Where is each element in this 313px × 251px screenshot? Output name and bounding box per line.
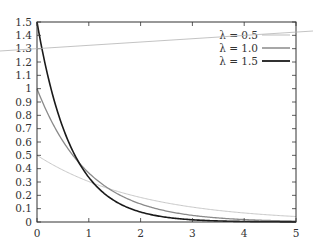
y-tick-label: 1.3 (15, 42, 32, 54)
y-tick-label: 0.3 (15, 176, 32, 188)
y-tick-label: 1.1 (15, 69, 32, 81)
legend-label: λ = 1.0 (219, 42, 258, 54)
y-tick-label: 0.1 (15, 202, 32, 214)
curve-lambda-1 (37, 89, 296, 221)
y-tick-label: 0.2 (15, 189, 32, 201)
y-tick-label: 0.6 (15, 136, 32, 148)
x-axis: 012345 (34, 22, 300, 239)
x-tick-label: 0 (34, 227, 41, 239)
legend: λ = 0.5λ = 1.0λ = 1.5 (219, 29, 290, 67)
y-tick-label: 0.7 (15, 122, 32, 134)
legend-label: λ = 1.5 (219, 55, 258, 67)
y-tick-label: 0.4 (15, 162, 32, 174)
y-tick-label: 0.9 (15, 96, 32, 108)
x-tick-label: 4 (241, 227, 248, 239)
x-tick-label: 5 (293, 227, 300, 239)
y-tick-label: 1.4 (15, 29, 32, 41)
y-tick-label: 0.8 (15, 109, 32, 121)
x-tick-label: 1 (85, 227, 92, 239)
x-tick-label: 2 (137, 227, 144, 239)
curve-lambda-0-5 (37, 155, 296, 216)
y-tick-label: 0.5 (15, 149, 32, 161)
y-tick-label: 0 (25, 216, 32, 228)
exponential-pdf-chart: 00.10.20.30.40.50.60.70.80.911.11.21.31.… (0, 0, 313, 251)
y-tick-label: 1.5 (15, 16, 32, 28)
y-tick-label: 1.2 (15, 56, 32, 68)
x-tick-label: 3 (189, 227, 196, 239)
y-tick-label: 1 (25, 82, 32, 94)
